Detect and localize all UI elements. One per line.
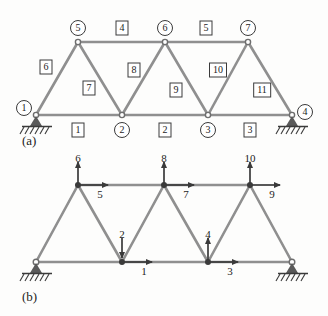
panel-caption-b: (b) bbox=[22, 290, 37, 303]
member-6 bbox=[36, 42, 78, 115]
node-label-1: 1 bbox=[16, 100, 32, 116]
member-9 bbox=[165, 42, 208, 115]
node-label-2: 2 bbox=[114, 122, 130, 138]
member-10 bbox=[208, 42, 248, 115]
element-label-2: 2 bbox=[159, 123, 172, 138]
member-11 bbox=[248, 42, 292, 115]
dof-label-9: 9 bbox=[269, 189, 275, 200]
element-label-5: 5 bbox=[200, 21, 213, 36]
dof-label-4: 4 bbox=[205, 229, 211, 240]
panel-b-supports bbox=[20, 263, 308, 281]
element-label-7: 7 bbox=[83, 81, 96, 96]
support-right-triangle-b bbox=[286, 263, 298, 273]
member-b-diag-5 bbox=[208, 185, 250, 262]
dof-label-3: 3 bbox=[227, 266, 233, 277]
element-label-9: 9 bbox=[170, 83, 183, 98]
element-label-11: 11 bbox=[253, 83, 271, 98]
node-label-5: 5 bbox=[70, 20, 86, 36]
element-label-4: 4 bbox=[116, 21, 129, 36]
support-left-triangle-a bbox=[30, 116, 42, 126]
dof-label-2: 2 bbox=[119, 229, 125, 240]
element-label-8: 8 bbox=[128, 63, 141, 78]
truss-figure: 1 2 3 4 5 6 7 1 2 3 4 5 6 7 8 9 10 11 1 … bbox=[0, 0, 328, 316]
joint-2 bbox=[119, 112, 124, 117]
joint-3 bbox=[205, 112, 210, 117]
dof-label-7: 7 bbox=[183, 189, 189, 200]
element-label-1: 1 bbox=[72, 123, 85, 138]
joint-5 bbox=[75, 39, 80, 44]
support-right-hatch-b bbox=[276, 274, 305, 281]
dof-label-8: 8 bbox=[161, 153, 167, 164]
member-b-diag-1 bbox=[36, 185, 78, 262]
dof-label-6: 6 bbox=[75, 153, 81, 164]
joint-6 bbox=[162, 39, 167, 44]
node-label-3: 3 bbox=[200, 122, 216, 138]
element-label-6: 6 bbox=[40, 60, 53, 75]
dof-label-5: 5 bbox=[97, 189, 103, 200]
joint-7 bbox=[245, 39, 250, 44]
support-right-hatch-a bbox=[276, 127, 305, 134]
member-7 bbox=[78, 42, 122, 115]
member-b-diag-3 bbox=[122, 185, 164, 262]
dof-label-1: 1 bbox=[141, 266, 147, 277]
element-label-3: 3 bbox=[244, 123, 257, 138]
node-label-7: 7 bbox=[240, 20, 256, 36]
member-8 bbox=[122, 42, 165, 115]
panel-b-members bbox=[36, 185, 292, 262]
panel-a-members bbox=[36, 42, 292, 115]
support-right-triangle-a bbox=[286, 116, 298, 126]
node-label-6: 6 bbox=[157, 20, 173, 36]
element-label-10: 10 bbox=[209, 63, 227, 78]
dof-label-10: 10 bbox=[245, 153, 256, 164]
panel-caption-a: (a) bbox=[22, 134, 36, 147]
support-left-triangle-b bbox=[30, 263, 42, 273]
support-left-hatch-b bbox=[20, 274, 49, 281]
node-label-4: 4 bbox=[297, 104, 313, 120]
